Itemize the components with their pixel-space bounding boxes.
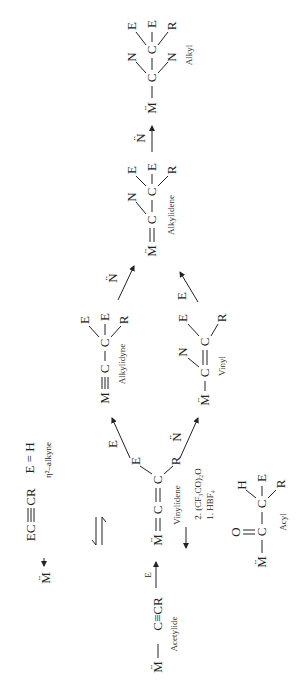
reagent-e: E	[143, 572, 153, 578]
reagent-e: E	[105, 440, 120, 448]
alkyne-left: EC	[23, 525, 38, 542]
alkylidene-n: N	[124, 192, 139, 202]
acetylide-structure: M̈ C≡CR Acetylide	[150, 597, 179, 673]
acetylide-label: Acetylide	[169, 617, 179, 652]
acyl-to-vinylidene-arrow: 2. (CF₃CO)₂O 1. HBF₄	[186, 468, 215, 548]
alkylidyne-r: R	[116, 315, 131, 324]
alkyl-c1: C	[144, 74, 159, 83]
alkylidyne-e2: E	[97, 313, 112, 321]
vinyl-n: N	[175, 347, 190, 357]
acyl-h: H	[234, 480, 249, 489]
vinyl-metal: M̈	[197, 394, 212, 406]
vinyl-e: E	[175, 314, 190, 322]
alkyne-label: η²–alkyne	[43, 442, 53, 478]
alkyl-n1: N	[124, 52, 139, 62]
nucleophile-arrow-to-alkyl: N̈	[133, 126, 152, 152]
alkyl-c2: C	[144, 46, 159, 55]
alkyne-metal: M̈	[38, 572, 53, 584]
vinyl-c1: C	[197, 369, 212, 378]
acetylide-formula: C≡CR	[150, 597, 165, 631]
acyl-c2: C	[254, 500, 269, 509]
acyl-metal: M̈	[254, 556, 269, 568]
alkyne-complex: E = H η²–alkyne EC CR M̈	[22, 442, 53, 584]
acetylide-to-vinylidene-arrow: E	[143, 562, 156, 588]
arrows-from-vinylidene: E N̈	[105, 418, 198, 458]
vinylidene-metal: M̈	[150, 534, 165, 546]
alkyl-structure: M̈ C C N N E E R Alkyl	[124, 20, 194, 114]
acyl-c1: C	[254, 528, 269, 537]
alkylidyne-c2: C	[97, 339, 112, 348]
alkyl-r: R	[164, 21, 179, 30]
alkylidene-label: Alkylidene	[166, 195, 176, 235]
vinylidene-c1: C	[150, 506, 165, 515]
alkyl-e2: E	[144, 20, 159, 28]
alkylidyne-e1: E	[77, 316, 92, 324]
equilibrium-arrows	[92, 517, 106, 545]
alkyne-condition: E = H	[22, 442, 37, 473]
reagent-n: N̈	[169, 432, 184, 442]
alkyl-e1: E	[124, 22, 139, 30]
acyl-reagent-1: 1. HBF₄	[205, 490, 215, 520]
alkyl-metal: M̈	[144, 102, 159, 114]
alkylidene-metal: M̈	[144, 245, 159, 257]
vinyl-r: R	[214, 313, 229, 322]
acyl-e: E	[254, 474, 269, 482]
alkylidene-r: R	[164, 165, 179, 174]
acyl-reagent-2: 2. (CF₃CO)₂O	[193, 468, 203, 520]
vinylidene-e: E	[128, 457, 143, 465]
alkylidene-e2: E	[144, 163, 159, 171]
alkylidene-c2: C	[144, 188, 159, 197]
vinylidene-c2: C	[150, 476, 165, 485]
alkylidene-e1: E	[124, 166, 139, 174]
reagent-e: E	[174, 292, 189, 300]
alkylidene-structure: M̈ C C N E E R Alkylidene	[124, 163, 179, 257]
vinylidene-label: Vinylidene	[172, 485, 182, 524]
vinyl-label: Vinyl	[217, 356, 227, 376]
alkyl-n2: N	[164, 52, 179, 62]
acyl-o: O	[228, 527, 243, 536]
acyl-structure: M̈ C O C H E R Acyl	[228, 474, 288, 568]
acyl-label: Acyl	[278, 513, 288, 531]
vinyl-structure: M̈ C C N E R Vinyl	[175, 313, 229, 405]
alkylidene-c1: C	[144, 216, 159, 225]
arrows-to-alkylidene: N̈ E	[105, 266, 198, 302]
alkyne-right: CR	[23, 488, 38, 506]
alkylidyne-c1: C	[97, 365, 112, 374]
reagent-n: N̈	[133, 133, 148, 143]
acyl-r: R	[273, 479, 288, 488]
reagent-n: N̈	[105, 273, 120, 283]
alkyl-label: Alkyl	[184, 44, 194, 65]
reaction-scheme: M̈ C C N N E E R Alkyl N̈ M̈ C C N E E R…	[0, 0, 303, 696]
vinylidene-r: R	[168, 456, 183, 465]
acetylide-metal: M̈	[150, 661, 165, 673]
vinylidene-structure: M̈ C C E R Vinylidene	[128, 456, 183, 545]
vinyl-c2: C	[197, 338, 212, 347]
alkylidyne-label: Alkylidyne	[117, 344, 127, 385]
alkylidyne-structure: M C C E E R Alkylidyne	[77, 313, 131, 404]
alkylidyne-metal: M	[97, 392, 112, 404]
